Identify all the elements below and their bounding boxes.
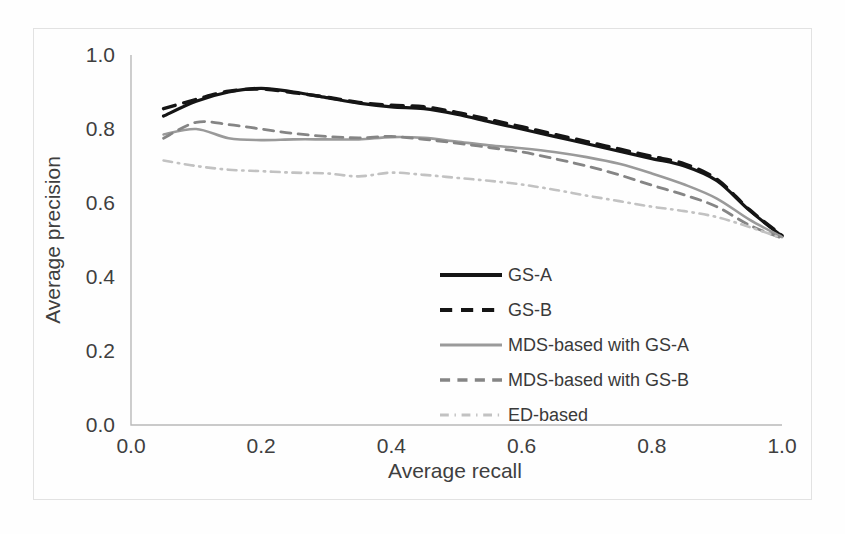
chart-figure: 0.00.20.40.60.81.0 0.00.20.40.60.81.0 Av… (0, 0, 845, 534)
data-series-group (164, 88, 782, 238)
y-tick-labels: 0.00.20.40.60.81.0 (86, 43, 116, 436)
y-tick-label: 0.2 (86, 339, 115, 362)
series-line-ed-based (164, 160, 782, 238)
y-tick-label: 0.0 (86, 413, 115, 436)
x-tick-labels: 0.00.20.40.60.81.0 (116, 434, 796, 457)
y-tick-label: 0.6 (86, 191, 115, 214)
x-tick-label: 0.2 (247, 434, 276, 457)
chart-legend: GS-AGS-BMDS-based with GS-AMDS-based wit… (440, 265, 689, 425)
y-tick-label: 0.4 (86, 265, 116, 288)
x-tick-label: 0.6 (507, 434, 536, 457)
series-line-gs-a (164, 88, 782, 236)
y-tick-label: 0.8 (86, 117, 115, 140)
y-axis-title: Average precision (41, 156, 64, 324)
series-line-gs-b (164, 89, 782, 236)
x-tick-label: 1.0 (767, 434, 796, 457)
legend-label: MDS-based with GS-B (508, 370, 689, 390)
legend-label: GS-A (508, 265, 552, 285)
y-tick-label: 1.0 (86, 43, 115, 66)
precision-recall-chart: 0.00.20.40.60.81.0 0.00.20.40.60.81.0 Av… (0, 0, 845, 534)
x-tick-label: 0.4 (377, 434, 407, 457)
legend-label: ED-based (508, 405, 588, 425)
legend-label: GS-B (508, 300, 552, 320)
x-axis-title: Average recall (388, 459, 522, 482)
x-tick-label: 0.8 (637, 434, 666, 457)
x-tick-label: 0.0 (116, 434, 145, 457)
legend-label: MDS-based with GS-A (508, 335, 689, 355)
